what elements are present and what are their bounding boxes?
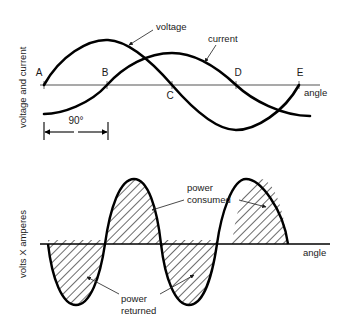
- point-label-C: C: [166, 90, 173, 101]
- power-returned-label-line2: returned: [121, 305, 156, 316]
- power-consumed-label-line2: consumed: [187, 194, 231, 205]
- power-consumed-leader-left: [152, 200, 184, 210]
- voltage-leader-line: [129, 30, 153, 45]
- point-label-E: E: [297, 67, 304, 78]
- upper-x-axis-label: angle: [304, 87, 327, 98]
- dimension-label: 90°: [68, 115, 83, 126]
- ninety-degree-dimension: 90°: [44, 115, 108, 140]
- power-lobe-negative-2: [161, 244, 217, 305]
- power-returned-label-line1: power: [121, 293, 147, 304]
- power-lobe-positive-1: [105, 179, 161, 244]
- power-lobe-negative-1: [48, 244, 105, 305]
- current-leader-line: [205, 45, 216, 62]
- lower-x-axis-label: angle: [303, 247, 326, 258]
- voltage-annotation-label: voltage: [156, 21, 187, 32]
- point-label-D: D: [234, 67, 241, 78]
- lower-y-axis-label: volts X amperes: [17, 210, 28, 278]
- point-label-B: B: [102, 67, 109, 78]
- power-consumed-label-line1: power: [187, 182, 213, 193]
- upper-y-axis-label: voltage and current: [17, 46, 28, 128]
- diagram-figure: voltage and current A B C D E voltage cu…: [0, 0, 344, 325]
- upper-chart: voltage and current A B C D E voltage cu…: [17, 21, 327, 140]
- waveform-diagram-canvas: voltage and current A B C D E voltage cu…: [0, 0, 344, 325]
- current-annotation-label: current: [208, 33, 238, 44]
- point-label-A: A: [36, 67, 43, 78]
- lower-chart: volts X amperes power consumed power ret…: [17, 179, 330, 316]
